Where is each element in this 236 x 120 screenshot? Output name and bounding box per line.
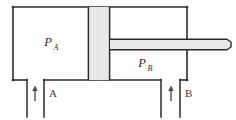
- cylinder-diagram: P A P B A B: [0, 0, 236, 120]
- chamber-b-label: P B: [137, 56, 152, 73]
- port-b-flow-arrow-head: [168, 86, 173, 91]
- piston-fill: [88, 7, 110, 80]
- port-a-flow-arrow-head: [32, 86, 37, 91]
- piston-block: [88, 7, 110, 81]
- port-b-label: B: [185, 87, 192, 99]
- rod-fill: [110, 39, 230, 50]
- chamber-b-label-p: P: [137, 56, 146, 70]
- port-a-label: A: [49, 87, 57, 99]
- piston-rod: [109, 39, 231, 50]
- chamber-b-label-subscript: B: [148, 64, 153, 73]
- diagram-canvas: P A P B A B: [0, 0, 236, 120]
- chamber-a-label: P A: [43, 35, 58, 52]
- chamber-a-label-p: P: [43, 35, 52, 49]
- chamber-a-label-subscript: A: [53, 43, 59, 52]
